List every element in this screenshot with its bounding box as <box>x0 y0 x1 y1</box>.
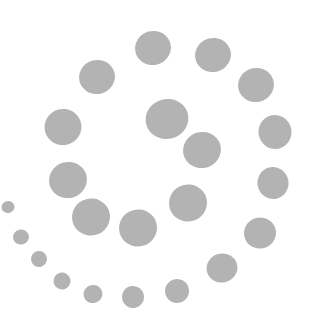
spiral-dot <box>255 111 296 152</box>
spiral-dot <box>68 194 114 240</box>
spiral-dot <box>75 56 119 98</box>
spiral-dot <box>141 94 193 144</box>
spiral-dot <box>45 158 91 203</box>
spiral-dot <box>234 64 278 106</box>
spiral-dot <box>52 271 73 292</box>
spiral-dot <box>115 205 161 251</box>
spiral-dot <box>120 284 147 310</box>
spiral-dot <box>203 250 240 286</box>
spiral-dot <box>162 276 191 305</box>
spiral-dots-figure <box>0 0 321 310</box>
spiral-dot <box>81 283 104 305</box>
spiral-dot <box>0 200 16 215</box>
spiral-dot <box>241 214 280 252</box>
spiral-dot <box>191 34 235 76</box>
spiral-dot <box>29 249 49 269</box>
spiral-dot <box>131 27 175 69</box>
spiral-dot <box>11 228 30 247</box>
spiral-dot <box>254 164 292 203</box>
spiral-dot <box>165 180 211 226</box>
spiral-dot <box>179 128 225 173</box>
spiral-dot <box>40 105 85 149</box>
